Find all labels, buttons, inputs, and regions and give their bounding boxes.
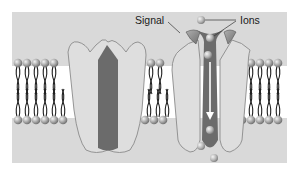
closed-channel-pore — [98, 45, 118, 151]
closed-channel — [68, 40, 146, 153]
diagram-canvas — [0, 0, 298, 176]
ion — [197, 142, 205, 150]
ion — [206, 126, 214, 134]
ion — [210, 154, 218, 162]
ion-extracellular — [197, 16, 205, 24]
open-channel — [172, 30, 250, 162]
ions-label: Ions — [240, 15, 260, 26]
ion — [206, 34, 214, 42]
ion — [204, 51, 212, 59]
signal-label: Signal — [135, 15, 164, 26]
ion-channel-diagram: Signal Ions — [0, 0, 298, 176]
